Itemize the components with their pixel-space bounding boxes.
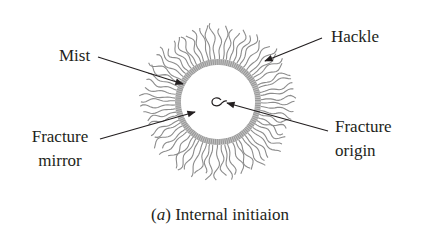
hackle-line xyxy=(245,135,264,160)
hackle-line xyxy=(230,33,240,61)
hackle-line xyxy=(258,73,291,85)
hackle-line xyxy=(260,111,291,120)
fracture-mirror-label: Fracture mirror xyxy=(24,127,96,170)
hackle-line xyxy=(218,29,222,59)
hackle-line xyxy=(261,95,296,100)
hackle-line xyxy=(256,63,283,81)
fracture-mirror-arrow xyxy=(100,112,195,139)
fracture-mirror-label-line1: Fracture xyxy=(24,127,96,146)
mist-label: Mist xyxy=(59,46,90,65)
fracture-origin-label-line2: origin xyxy=(335,141,392,160)
hackle-line xyxy=(140,105,175,108)
figure-caption: (a) Internal initiaion xyxy=(0,205,423,225)
fracture-origin-label: Fracture origin xyxy=(335,117,392,160)
hackle-line xyxy=(239,140,254,170)
hackle-line xyxy=(261,101,295,105)
hackle-line xyxy=(139,94,175,98)
hackle-line xyxy=(261,107,294,112)
hackle-line xyxy=(233,30,246,62)
fracture-mirror-label-line2: mirror xyxy=(24,151,96,170)
hackle-line xyxy=(184,141,199,170)
hackle-line xyxy=(141,99,175,103)
caption-text: ) Internal initiaion xyxy=(165,205,289,224)
fracture-origin-label-line1: Fracture xyxy=(335,117,392,136)
fracture-mirror-area xyxy=(181,65,255,139)
hackle-line xyxy=(152,65,180,83)
hackle-line xyxy=(253,58,282,77)
mist-arrow xyxy=(98,57,183,84)
hackle-label: Hackle xyxy=(331,27,379,46)
hackle-line xyxy=(151,120,179,136)
caption-letter: a xyxy=(157,205,166,224)
hackle-line xyxy=(191,142,203,177)
hackle-line xyxy=(260,83,293,93)
hackle-line xyxy=(200,28,209,60)
hackle-line xyxy=(248,133,268,158)
hackle-line xyxy=(242,138,265,166)
hackle-line xyxy=(253,127,282,144)
hackle-line xyxy=(214,145,220,180)
hackle-arrow xyxy=(265,38,322,61)
